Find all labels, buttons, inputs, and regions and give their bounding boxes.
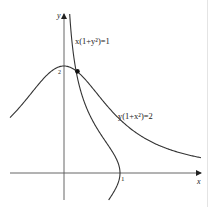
- curve-y-1-plus-x2-eq-2: [10, 66, 201, 158]
- curve-diagram: y x 1 2 x(1+y²)=1 y(1+x²)=2: [0, 0, 208, 207]
- x-tick-label-1: 1: [121, 175, 125, 183]
- curve-a-equation-label: x(1+y²)=1: [75, 36, 110, 46]
- intersection-point: [75, 69, 80, 74]
- y-tick-label-2: 2: [58, 69, 61, 75]
- curve-b-equation-label: y(1+x²)=2: [118, 111, 153, 121]
- y-axis-label: y: [56, 11, 61, 20]
- x-axis-label: x: [196, 177, 201, 186]
- frame-border: [207, 0, 208, 207]
